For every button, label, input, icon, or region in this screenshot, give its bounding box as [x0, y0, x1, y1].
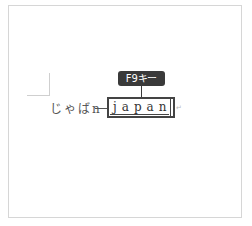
key-callout: F9キー — [118, 71, 165, 86]
ime-conversion-box[interactable]: japan — [107, 97, 175, 118]
margin-corner-mark-horizontal — [27, 95, 50, 96]
conversion-text: japan — [113, 99, 171, 115]
text-caret — [170, 99, 171, 116]
key-callout-pointer — [141, 86, 142, 97]
conversion-start-tick — [111, 114, 116, 115]
connector-line — [95, 108, 107, 109]
margin-corner-mark-vertical — [49, 73, 50, 95]
typed-text: じゃばn — [50, 100, 102, 118]
paragraph-mark-icon: ↵ — [176, 103, 182, 113]
key-callout-label: F9キー — [126, 73, 157, 84]
